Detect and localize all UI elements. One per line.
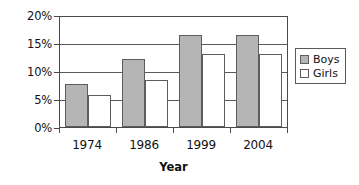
x-tick-mark-1 [116, 128, 117, 133]
legend-item-boys: Boys [300, 52, 340, 66]
legend-label-boys: Boys [313, 54, 340, 65]
x-tick-label-1986: 1986 [114, 139, 174, 152]
bar-girls-1999 [202, 54, 225, 127]
x-tick-label-2004: 2004 [228, 139, 288, 152]
legend: Boys Girls [295, 48, 346, 84]
gray-filled-square-icon [300, 55, 309, 64]
y-tick-label-10: 10% [0, 67, 52, 78]
y-tick-label-0: 0% [0, 123, 52, 134]
bar-girls-1974 [88, 95, 111, 127]
bar-boys-2004 [236, 35, 259, 127]
bar-boys-1999 [179, 35, 202, 127]
white-outline-square-icon [300, 69, 309, 78]
x-tick-mark-end [287, 128, 288, 133]
legend-item-girls: Girls [300, 66, 340, 80]
plot-area [59, 16, 288, 128]
y-tick-label-5: 5% [0, 95, 52, 106]
x-tick-mark-start [59, 128, 60, 133]
y-tick-label-20: 20% [0, 11, 52, 22]
bar-boys-1974 [65, 84, 88, 127]
bar-boys-1986 [122, 59, 145, 127]
x-tick-label-1999: 1999 [171, 139, 231, 152]
y-axis: 20% 15% 10% 5% 0% [0, 0, 52, 185]
y-tick-label-15: 15% [0, 39, 52, 50]
x-tick-mark-3 [230, 128, 231, 133]
x-tick-mark-2 [173, 128, 174, 133]
x-tick-label-1974: 1974 [57, 139, 117, 152]
legend-label-girls: Girls [313, 68, 338, 79]
x-axis-title: Year [59, 160, 288, 174]
bar-girls-1986 [145, 80, 168, 127]
bar-girls-2004 [259, 54, 282, 127]
bar-chart: 20% 15% 10% 5% 0% 1974 1986 1999 2004 Ye… [0, 0, 359, 185]
